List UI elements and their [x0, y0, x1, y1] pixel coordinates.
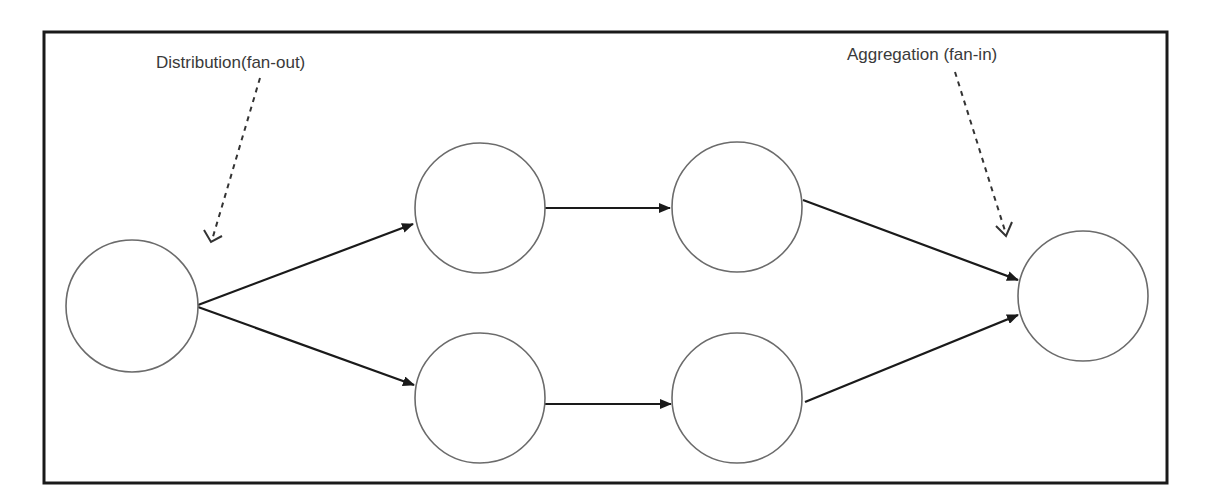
- aggregation-label: Aggregation (fan-in): [847, 45, 997, 64]
- distribution-label: Distribution(fan-out): [156, 53, 305, 72]
- node-source: [66, 240, 198, 372]
- fan-out-fan-in-diagram: Distribution(fan-out) Aggregation (fan-i…: [0, 0, 1208, 499]
- node-sink: [1018, 231, 1148, 361]
- diagram-frame: [44, 32, 1167, 483]
- node-top-stage-1: [415, 143, 545, 273]
- node-bottom-stage-1: [415, 333, 545, 463]
- node-bottom-stage-2: [672, 333, 802, 463]
- node-top-stage-2: [672, 142, 802, 272]
